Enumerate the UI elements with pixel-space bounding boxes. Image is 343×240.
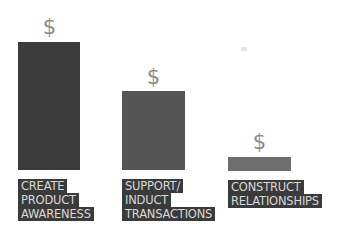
label-line: CONSTRUCT <box>228 180 304 194</box>
bar-create-product-awareness <box>18 42 80 170</box>
label-line: INDUCT <box>122 193 171 207</box>
dollar-icon: $ <box>122 67 185 88</box>
label-line: TRANSACTIONS <box>122 207 215 221</box>
dollar-icon: $ <box>18 17 81 38</box>
bar-construct-relationships <box>228 157 291 171</box>
speck <box>241 47 247 51</box>
label-support-induct-transactions: SUPPORT/ INDUCT TRANSACTIONS <box>122 179 215 221</box>
label-line: PRODUCT <box>18 193 79 207</box>
dollar-icon: $ <box>228 132 291 153</box>
label-line: AWARENESS <box>18 207 94 221</box>
label-line: RELATIONSHIPS <box>228 194 322 208</box>
label-construct-relationships: CONSTRUCT RELATIONSHIPS <box>228 180 322 208</box>
bar-support-induct-transactions <box>122 91 185 170</box>
label-line: CREATE <box>18 179 67 193</box>
label-create-product-awareness: CREATE PRODUCT AWARENESS <box>18 179 94 221</box>
label-line: SUPPORT/ <box>122 179 183 193</box>
